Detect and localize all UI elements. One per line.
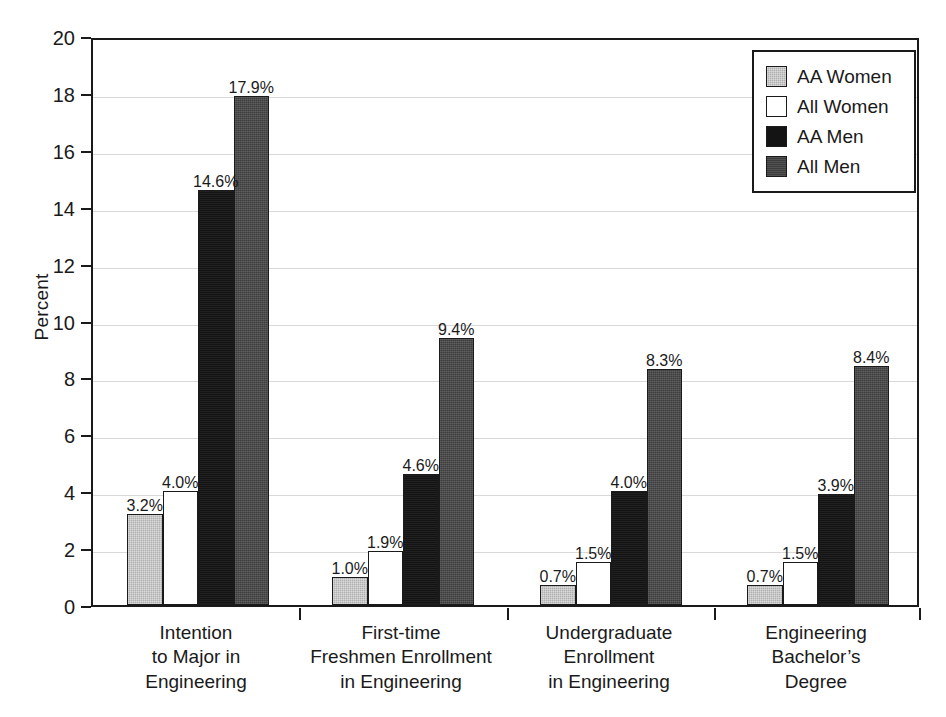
bar xyxy=(540,585,576,605)
x-tick-mark xyxy=(714,608,716,620)
legend-label-aa-women: AA Women xyxy=(797,67,892,86)
y-tick-mark xyxy=(81,322,91,324)
y-tick-label: 4 xyxy=(64,483,75,503)
legend-label-aa-men: AA Men xyxy=(797,127,864,146)
bar-value-label: 8.4% xyxy=(842,350,902,366)
y-tick-mark xyxy=(81,208,91,210)
legend-item: All Men xyxy=(766,151,904,181)
legend-swatch-all-women xyxy=(766,96,787,117)
bar-value-label: 4.0% xyxy=(599,475,659,491)
legend-swatch-all-men xyxy=(766,156,787,177)
bar xyxy=(332,577,368,605)
y-tick-label: 8 xyxy=(64,369,75,389)
bar-value-label: 4.6% xyxy=(391,458,451,474)
y-tick-mark xyxy=(81,549,91,551)
legend-swatch-aa-women xyxy=(766,66,787,87)
bar-value-label: 1.9% xyxy=(356,535,416,551)
y-tick-mark xyxy=(81,378,91,380)
y-tick-mark xyxy=(81,492,91,494)
legend-swatch-aa-men xyxy=(766,126,787,147)
y-tick-mark xyxy=(81,435,91,437)
legend-item: AA Men xyxy=(766,121,904,151)
bar-value-label: 1.5% xyxy=(771,546,831,562)
bar xyxy=(198,190,234,605)
y-tick-label: 10 xyxy=(53,313,75,333)
y-tick-label: 20 xyxy=(53,28,75,48)
y-tick-label: 14 xyxy=(53,199,75,219)
bar-value-label: 3.2% xyxy=(115,498,175,514)
y-tick-label: 2 xyxy=(64,540,75,560)
bar-value-label: 1.5% xyxy=(564,546,624,562)
bar-value-label: 17.9% xyxy=(222,80,282,96)
y-tick-mark xyxy=(81,265,91,267)
y-tick-label: 16 xyxy=(53,142,75,162)
x-category-label: Engineering Bachelor’s Degree xyxy=(686,621,946,694)
legend-item: All Women xyxy=(766,91,904,121)
x-tick-mark xyxy=(919,608,921,620)
bar-value-label: 8.3% xyxy=(635,353,695,369)
x-tick-mark xyxy=(299,608,301,620)
bar-value-label: 9.4% xyxy=(427,322,487,338)
y-tick-mark xyxy=(81,94,91,96)
legend-label-all-men: All Men xyxy=(797,157,860,176)
x-tick-mark xyxy=(507,608,509,620)
bar-value-label: 0.7% xyxy=(528,569,588,585)
bar-value-label: 14.6% xyxy=(186,174,246,190)
y-tick-label: 12 xyxy=(53,256,75,276)
chart-legend: AA Women All Women AA Men All Men xyxy=(752,50,916,193)
y-tick-mark xyxy=(81,151,91,153)
bar xyxy=(747,585,783,605)
bar-value-label: 3.9% xyxy=(806,478,866,494)
y-tick-label: 0 xyxy=(64,597,75,617)
legend-label-all-women: All Women xyxy=(797,97,889,116)
y-tick-mark xyxy=(81,606,91,608)
bar-value-label: 1.0% xyxy=(320,561,380,577)
bar xyxy=(368,551,404,605)
y-tick-mark xyxy=(81,37,91,39)
legend-item: AA Women xyxy=(766,61,904,91)
y-tick-label: 6 xyxy=(64,426,75,446)
bar xyxy=(127,514,163,605)
bar-chart: Percent 02468101214161820 3.2%4.0%14.6%1… xyxy=(0,0,946,717)
y-axis-ticks: 02468101214161820 xyxy=(0,38,91,607)
bar xyxy=(234,96,270,605)
y-tick-label: 18 xyxy=(53,85,75,105)
bar-value-label: 4.0% xyxy=(151,475,211,491)
bar-value-label: 0.7% xyxy=(735,569,795,585)
